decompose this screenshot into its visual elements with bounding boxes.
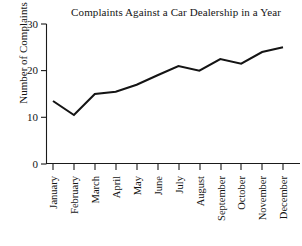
x-tick-label-june: June [153,176,164,196]
x-tick-label-april: April [111,176,122,198]
x-tick-label-october: October [236,176,247,210]
data-line-complaints [53,47,283,115]
x-tick-label-august: August [195,176,206,206]
x-tick-label-november: November [257,176,268,221]
x-tick-label-january: January [48,175,59,208]
x-tick-label-march: March [90,175,101,203]
y-tick-label-10: 10 [27,111,39,123]
x-tick-label-july: July [174,175,185,193]
x-tick-label-may: May [132,175,143,195]
y-tick-label-0: 0 [33,158,39,170]
y-tick-label-20: 20 [27,64,39,76]
y-tick-label-30: 30 [27,18,39,30]
x-tick-label-december: December [278,175,289,219]
plot-area: 0 10 20 30 January February March April … [0,0,302,246]
x-tick-label-september: September [216,176,227,221]
chart-figure: Complaints Against a Car Dealership in a… [0,0,302,246]
x-tick-label-february: February [69,175,80,214]
